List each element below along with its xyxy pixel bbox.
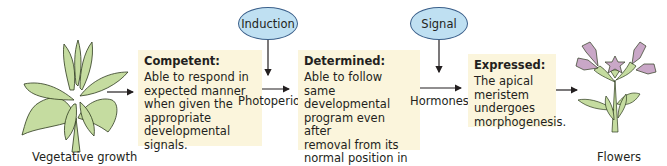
- induction-oval: Induction: [238, 7, 298, 40]
- flowering-plant-icon: [576, 42, 656, 132]
- vegetative-plant-icon: [22, 40, 128, 152]
- expressed-title: Expressed:: [474, 58, 550, 72]
- competent-description: Able to respond in expected manner when …: [144, 71, 256, 152]
- expressed-description: The apical meristem undergoes morphogene…: [474, 75, 550, 129]
- determined-box: Determined: Able to follow same developm…: [298, 50, 420, 150]
- determined-title: Determined:: [304, 54, 414, 68]
- expressed-box: Expressed: The apical meristem undergoes…: [468, 54, 556, 127]
- signal-label: Signal: [421, 17, 456, 31]
- flowers-label: Flowers: [597, 150, 641, 164]
- competent-title: Competent:: [144, 54, 256, 68]
- induction-label: Induction: [241, 17, 295, 31]
- vegetative-growth-label: Vegetative growth: [32, 150, 137, 164]
- determined-description: Able to follow same developmental progra…: [304, 71, 414, 166]
- signal-oval: Signal: [410, 7, 468, 40]
